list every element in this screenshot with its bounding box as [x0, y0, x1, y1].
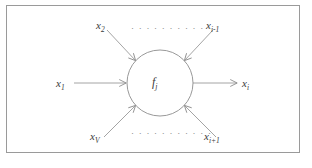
arrow-input-x2 — [107, 30, 136, 61]
ellipsis-top: · · · · · · · · · · · — [131, 24, 212, 33]
label-input-x1: x1 — [56, 78, 65, 89]
label-output-xi: xi — [242, 78, 249, 89]
label-input-xV: xV — [90, 131, 99, 142]
arrow-input-xi-minus-1 — [185, 30, 214, 61]
node-circle — [127, 50, 193, 116]
label-input-x2: x2 — [96, 20, 105, 31]
figure-canvas: fj x1 x2 xi-1 xV xi+1 xi · · · · · · · ·… — [0, 0, 312, 168]
ellipsis-bottom: · · · · · · · · · · · — [131, 129, 212, 138]
node-function-label: fj — [152, 76, 158, 88]
